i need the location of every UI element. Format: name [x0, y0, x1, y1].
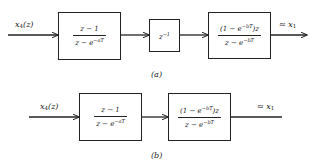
a-block-3-transfer-function: (1 − e−bT)z z − e−bT: [208, 12, 271, 59]
a-block-3-numerator: (1 − e−bT)z: [218, 24, 261, 35]
a-block-1-transfer-function: z − 1 z − e−aT: [58, 12, 121, 60]
b-block-2-transfer-function: (1 − e−bT)z z − e−bT: [168, 93, 231, 141]
b-block-2-numerator: (1 − e−bT)z: [178, 106, 221, 117]
a-input-label: x4(z): [15, 21, 33, 30]
b-block-2-denominator: z − e−bT: [183, 118, 216, 129]
a-block-2-expression: z−1: [159, 31, 170, 41]
b-block-1-numerator: z − 1: [99, 107, 121, 116]
a-block-1-denominator: z − e−aT: [73, 36, 106, 47]
b-caption: (b): [151, 151, 162, 160]
b-block-1-denominator: z − e−aT: [94, 117, 127, 128]
b-block-1-transfer-function: z − 1 z − e−aT: [79, 93, 142, 141]
b-output-label: ≈ x1: [257, 103, 274, 112]
a-block-1-numerator: z − 1: [78, 26, 100, 35]
a-block-2-delay: z−1: [149, 19, 180, 52]
b-input-label: x4(z): [40, 103, 58, 112]
a-caption: (a): [151, 70, 162, 79]
a-output-label: ≈ x1: [279, 21, 296, 30]
a-block-3-denominator: z − e−bT: [223, 36, 256, 47]
